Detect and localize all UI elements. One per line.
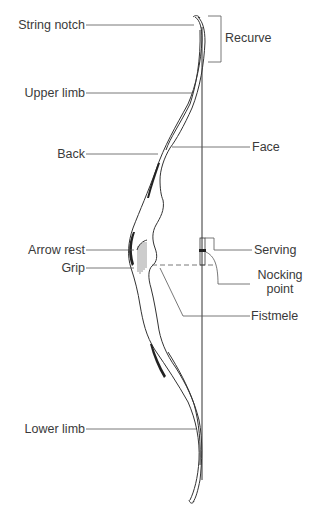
leader-fistmele — [160, 268, 250, 316]
lower-tip — [189, 500, 194, 503]
nocking-point-mark — [199, 249, 206, 252]
label-face: Face — [252, 140, 280, 154]
label-nocking-point: Nocking point — [252, 268, 308, 296]
label-serving: Serving — [254, 243, 296, 257]
label-string-notch: String notch — [0, 18, 85, 32]
leader-serving — [205, 238, 252, 250]
bow-illustration — [0, 0, 315, 515]
label-upper-limb: Upper limb — [0, 86, 85, 100]
bow-back-outline — [129, 17, 202, 500]
label-lower-limb: Lower limb — [0, 422, 85, 436]
leader-nocking-point — [206, 252, 250, 284]
label-fistmele: Fistmele — [251, 309, 298, 323]
label-grip: Grip — [0, 261, 85, 275]
label-arrow-rest: Arrow rest — [0, 243, 85, 257]
label-nocking-line2: point — [252, 282, 308, 296]
recurve-bracket — [208, 16, 221, 62]
label-nocking-line1: Nocking — [252, 268, 308, 282]
label-back: Back — [0, 147, 85, 161]
label-recurve: Recurve — [225, 31, 272, 45]
grip-hatching — [138, 242, 146, 274]
back-lamination-lower — [150, 344, 166, 378]
back-lamination-upper — [147, 163, 160, 198]
